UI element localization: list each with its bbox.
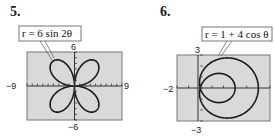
figures: −9 9 6 −6 r = 6 sin 2θ −2 3 −3 r = 1 + 4… (0, 0, 274, 139)
graph-6-ymin-label: −3 (191, 125, 201, 135)
graph-6-ymax-label: 3 (195, 45, 200, 55)
graph-5-ymin-label: −6 (68, 122, 78, 132)
graph-6-xmin-label: −2 (163, 84, 173, 94)
graph-5-xmax-label: 9 (124, 81, 129, 91)
graph-5: −9 9 6 −6 r = 6 sin 2θ (6, 26, 129, 132)
graph-5-ymax-label: 6 (71, 42, 76, 52)
graph-6: −2 3 −3 r = 1 + 4 cos θ (163, 27, 272, 135)
graph-6-equation: r = 1 + 4 cos θ (205, 28, 269, 40)
graph-5-xmin-label: −9 (6, 81, 16, 91)
graph-5-equation: r = 6 sin 2θ (22, 27, 72, 39)
